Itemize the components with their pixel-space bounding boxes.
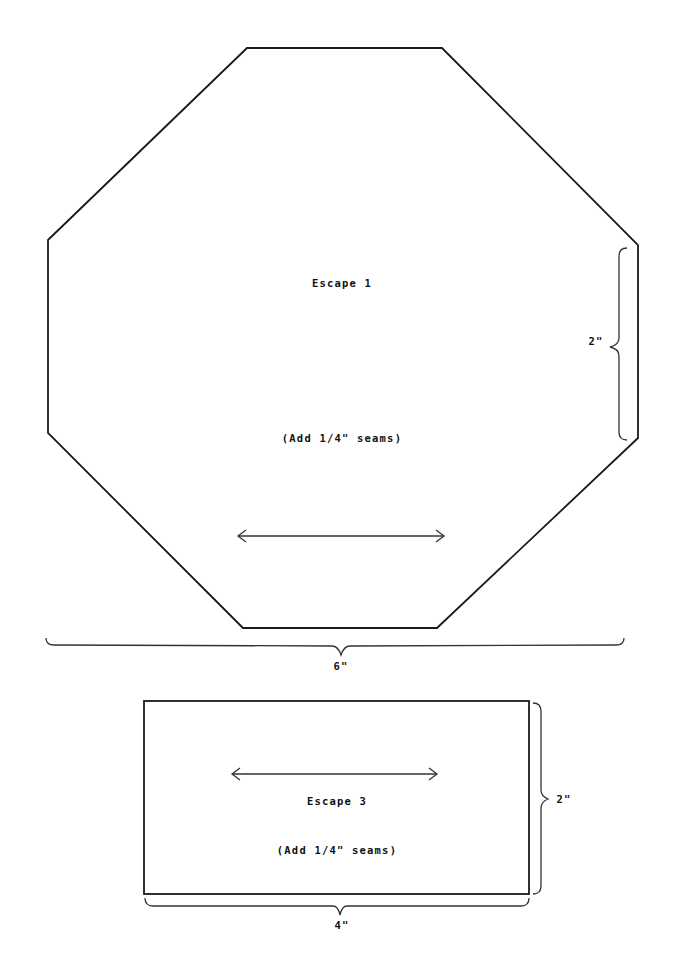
width-brace-rectangle (145, 898, 529, 915)
pattern-canvas (0, 0, 674, 972)
piece-title-escape-3: Escape 3 (307, 795, 367, 807)
seam-note-escape-1: (Add 1/4" seams) (282, 432, 402, 444)
side-label-octagon: 2" (588, 335, 603, 347)
side-brace-octagon (610, 248, 627, 440)
height-brace-rectangle (533, 703, 548, 894)
grainline-arrow-octagon (238, 530, 444, 542)
piece-title-escape-1: Escape 1 (312, 277, 372, 289)
octagon-outline (48, 48, 638, 628)
height-label-rectangle: 2" (556, 793, 571, 805)
width-label-octagon: 6" (333, 660, 348, 672)
grainline-arrow-rectangle (232, 768, 437, 780)
seam-note-escape-3: (Add 1/4" seams) (277, 844, 397, 856)
width-brace-octagon (46, 638, 624, 655)
width-label-rectangle: 4" (334, 919, 349, 931)
